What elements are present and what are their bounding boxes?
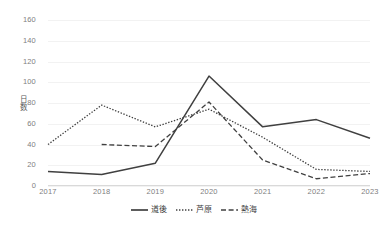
legend-label: 芦原 <box>196 206 212 214</box>
y-axis-tick-label: 0 <box>32 182 36 190</box>
x-axis-tick-label: 2023 <box>361 188 379 196</box>
legend-swatch-solid-icon <box>131 206 148 214</box>
series-line-熱海 <box>102 102 370 179</box>
series-line-道後 <box>48 76 370 175</box>
x-axis-tick-label: 2018 <box>93 188 111 196</box>
x-axis-tick-label: 2019 <box>147 188 165 196</box>
x-axis-tick-labels: 2017201820192020202120222023 <box>48 188 370 202</box>
legend-swatch-dotted-icon <box>176 206 193 214</box>
legend-item-道後[interactable]: 道後 <box>131 206 167 214</box>
y-axis-tick-label: 160 <box>23 16 36 24</box>
y-axis-tick-label: 140 <box>23 37 36 45</box>
x-axis-tick-label: 2020 <box>200 188 218 196</box>
y-axis-tick-label: 100 <box>23 79 36 87</box>
y-axis-tick-label: 120 <box>23 58 36 66</box>
legend-label: 道後 <box>151 206 167 214</box>
chart-legend: 道後芦原熱海 <box>0 206 388 214</box>
plot-area <box>48 20 370 186</box>
legend-swatch-dashed-icon <box>221 206 238 214</box>
x-axis-tick-label: 2021 <box>254 188 272 196</box>
y-axis-tick-label: 20 <box>27 162 36 170</box>
y-axis-tick-labels: 020406080100120140160 <box>0 20 42 186</box>
x-axis-tick-label: 2022 <box>308 188 326 196</box>
series-line-芦原 <box>48 105 370 171</box>
x-axis-tick-label: 2017 <box>39 188 57 196</box>
y-axis-tick-label: 80 <box>27 99 36 107</box>
series-container <box>48 20 370 186</box>
y-axis-tick-label: 40 <box>27 141 36 149</box>
legend-item-芦原[interactable]: 芦原 <box>176 206 212 214</box>
legend-item-熱海[interactable]: 熱海 <box>221 206 257 214</box>
legend-label: 熱海 <box>241 206 257 214</box>
y-axis-tick-label: 60 <box>27 120 36 128</box>
line-chart: 日数 020406080100120140160 201720182019202… <box>0 0 388 232</box>
